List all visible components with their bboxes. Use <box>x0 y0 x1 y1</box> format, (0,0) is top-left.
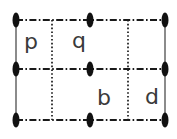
letter-d: d <box>145 84 159 109</box>
marker-bottom-left <box>13 113 20 128</box>
letter-grid-figure: pqbd <box>0 0 177 139</box>
letter-b: b <box>97 85 111 110</box>
marker-middle-left <box>13 62 20 77</box>
marker-top-center <box>87 13 94 28</box>
marker-middle-center <box>87 62 94 77</box>
marker-top-left <box>13 13 20 28</box>
figure-canvas: pqbd <box>0 0 177 139</box>
marker-top-right <box>162 13 169 28</box>
letter-p: p <box>24 29 38 54</box>
marker-middle-right <box>162 62 169 77</box>
letter-q: q <box>72 28 86 53</box>
marker-bottom-center <box>87 113 94 128</box>
marker-bottom-right <box>162 113 169 128</box>
